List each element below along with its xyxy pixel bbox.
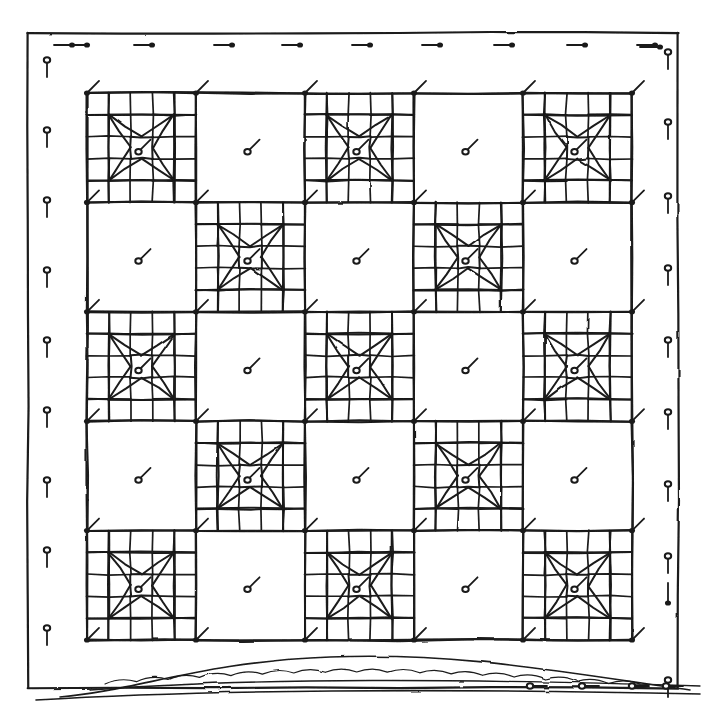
illustration-stage: Quilt Top Layout Diagram pieced quilt to… [0, 0, 706, 722]
quilt-diagram-svg [0, 0, 706, 722]
paper-background [0, 0, 706, 722]
